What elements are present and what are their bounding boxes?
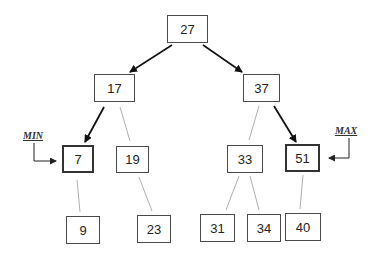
edge-27-17	[130, 45, 172, 72]
node-7-min: 7	[62, 145, 94, 173]
node-9: 9	[66, 216, 100, 244]
edge-33-34	[250, 176, 259, 210]
edge-37-51	[274, 106, 296, 142]
max-pointer-arrow	[329, 138, 349, 158]
node-40: 40	[285, 213, 321, 241]
edge-7-9	[77, 180, 80, 212]
max-label: MAX	[335, 125, 357, 136]
edge-17-7	[85, 107, 104, 142]
node-19: 19	[116, 146, 149, 173]
node-27: 27	[167, 15, 208, 43]
edge-19-23	[139, 177, 152, 211]
edge-17-19	[120, 107, 130, 141]
min-label: MIN	[23, 130, 43, 141]
node-33: 33	[227, 145, 263, 173]
node-31: 31	[200, 214, 235, 242]
node-34: 34	[247, 214, 281, 242]
node-51-max: 51	[285, 144, 320, 172]
edge-33-31	[226, 176, 239, 210]
min-pointer-arrow	[34, 143, 56, 161]
edge-27-37	[203, 45, 242, 72]
edge-51-40	[300, 175, 303, 209]
edge-37-33	[249, 106, 259, 140]
node-23: 23	[137, 215, 171, 243]
node-17: 17	[94, 74, 135, 102]
node-37: 37	[243, 74, 280, 102]
